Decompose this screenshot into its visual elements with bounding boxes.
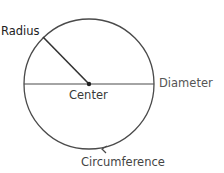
center-point (87, 82, 91, 86)
circle-diagram: Radius Center Diameter Circumference (0, 0, 224, 173)
circumference-label: Circumference (81, 157, 165, 169)
center-label: Center (69, 90, 108, 102)
radius-line (43, 37, 89, 84)
radius-label: Radius (1, 26, 40, 38)
diameter-label: Diameter (159, 78, 213, 90)
